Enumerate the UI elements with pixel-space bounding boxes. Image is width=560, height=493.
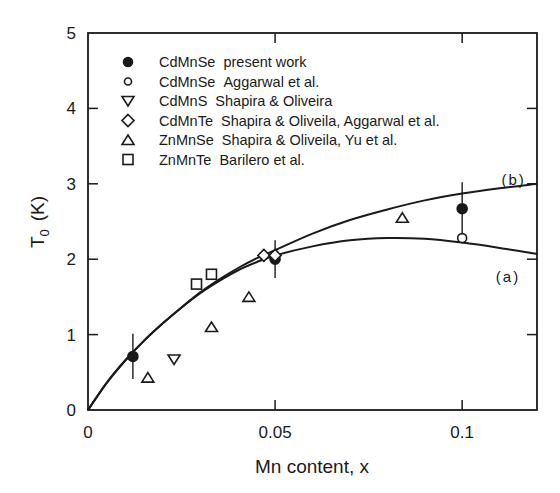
legend-entry: CdMnSepresent work [124,54,308,70]
legend-label: ZnMnSeShapira & Oliveila, Yu et al. [159,132,397,148]
chart: 00.050.1012345 (a)(b) CdMnSepresent work… [0,0,560,493]
legend-label: CdMnSeAggarwal et al. [159,74,319,90]
legend-entry: ZnMnSeShapira & Oliveila, Yu et al. [122,132,397,148]
legend: CdMnSepresent workCdMnSeAggarwal et al.C… [122,54,439,168]
open-circle-marker [125,78,132,85]
square-marker [123,155,133,165]
model-curves: (a)(b) [88,171,537,410]
legend-entry: CdMnSeAggarwal et al. [125,74,320,90]
up-triangle-marker [122,135,134,145]
y-axis-label-main: T [27,236,48,248]
up-triangle-marker [243,292,255,302]
y-tick-label: 2 [67,250,76,269]
svg-text:T0(K): T0(K) [27,196,52,248]
legend-label: ZnMnTeBarilero et al. [159,152,305,168]
open-circle-marker [458,234,467,243]
curve-a [88,238,537,410]
filled-circle-marker [124,58,133,67]
curve-label: (b) [501,171,525,188]
y-tick-label: 3 [67,175,76,194]
x-tick-label: 0.1 [450,423,474,442]
up-triangle-marker [142,373,154,383]
filled-circle-marker [128,351,138,361]
square-marker [192,279,202,289]
square-marker [206,269,216,279]
y-axis-label: T0(K) [27,196,52,248]
x-tick-label: 0 [83,423,92,442]
x-tick-label: 0.05 [259,423,292,442]
y-tick-label: 0 [67,401,76,420]
up-triangle-marker [205,322,217,332]
legend-entry: ZnMnTeBarilero et al. [123,152,305,168]
y-tick-label: 5 [67,24,76,43]
diamond-marker [122,115,134,127]
up-triangle-marker [396,213,408,223]
legend-label: CdMnSepresent work [159,54,307,70]
x-axis-label: Mn content, x [255,456,370,477]
legend-entry: CdMnTeShapira & Oliveila, Aggarwal et al… [122,113,439,129]
data-points [128,182,467,382]
legend-entry: CdMnSShapira & Oliveira [122,93,333,109]
legend-label: CdMnSShapira & Oliveira [159,93,333,109]
y-axis-label-sub: 0 [37,229,52,236]
plot-border [88,33,537,410]
filled-circle-marker [457,204,467,214]
curve-b [88,184,537,410]
curve-label: (a) [496,268,520,285]
plot-frame [88,33,537,410]
legend-label: CdMnTeShapira & Oliveila, Aggarwal et al… [159,113,439,129]
y-tick-label: 4 [67,99,76,118]
y-tick-label: 1 [67,326,76,345]
y-axis-label-unit: (K) [27,196,48,221]
down-triangle-marker [122,97,134,107]
down-triangle-marker [168,355,180,365]
